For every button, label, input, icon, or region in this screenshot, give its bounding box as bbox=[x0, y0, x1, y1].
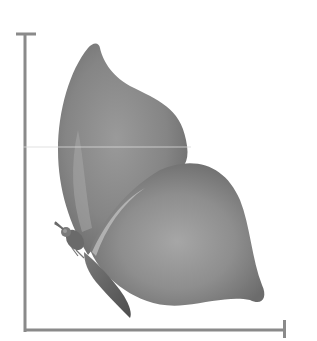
butterfly-illustration bbox=[54, 44, 264, 319]
butterfly-figure bbox=[0, 0, 317, 341]
vertical-axis bbox=[16, 33, 36, 333]
scan-line bbox=[23, 147, 191, 148]
horizontal-axis bbox=[24, 320, 286, 338]
